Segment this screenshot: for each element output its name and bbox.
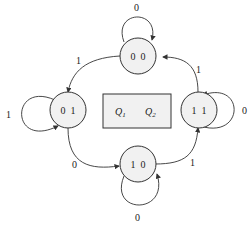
state-s01: 0 1 [50,92,86,128]
state-s00: 0 0 [120,38,156,74]
legend-box: Q1 Q2 [103,94,171,128]
label-loop-s01: 1 [6,109,11,120]
label-edge-s01-s10: 0 [72,159,77,170]
edge-s11-s00 [163,57,198,92]
state-diagram: 0 1 0 0 1 0 1 1 0 0 0 1 1 1 1 0 Q1 Q2 [0,0,251,226]
label-edge-s10-s11: 1 [190,157,195,168]
state-s11: 1 1 [181,92,217,128]
state-s10: 1 0 [120,146,156,182]
svg-text:0 0: 0 0 [131,51,146,62]
label-loop-s10: 0 [135,212,140,223]
label-loop-s00: 0 [134,2,139,13]
svg-text:1 0: 1 0 [131,159,146,170]
label-loop-s11: 0 [242,105,247,116]
svg-text:0 1: 0 1 [61,105,76,116]
label-edge-s00-s01: 1 [76,55,81,66]
svg-text:1 1: 1 1 [192,105,207,116]
label-edge-s11-s00: 1 [196,64,201,75]
